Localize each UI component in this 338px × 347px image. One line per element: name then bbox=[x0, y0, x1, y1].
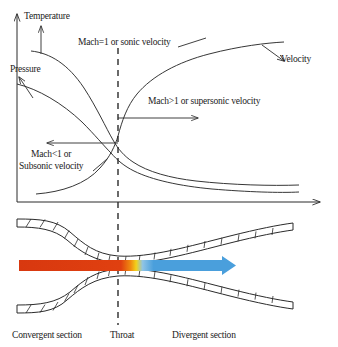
subsonic-label-leader bbox=[93, 159, 107, 171]
nozzle-lower-wall bbox=[17, 268, 293, 313]
divergent-section-label: Divergent section bbox=[172, 330, 236, 341]
convergent-section-label: Convergent section bbox=[12, 330, 82, 341]
nozzle-upper-wall-inner bbox=[17, 227, 293, 263]
throat-label: Throat bbox=[110, 330, 134, 341]
nozzle-flow-diagram: Temperature Pressure Mach=1 or sonic vel… bbox=[0, 0, 338, 347]
pressure-label: Pressure bbox=[10, 64, 41, 75]
flow-arrow bbox=[19, 256, 236, 275]
mach-one-leader bbox=[178, 38, 206, 47]
velocity-label: Velocity bbox=[281, 54, 311, 65]
temperature-label: Temperature bbox=[24, 11, 70, 22]
subsonic-label: Mach<1 or Subsonic velocity bbox=[19, 148, 83, 172]
mach-one-label: Mach=1 or sonic velocity bbox=[78, 37, 171, 48]
supersonic-label: Mach>1 or supersonic velocity bbox=[148, 96, 260, 107]
pressure-leader-arrow bbox=[19, 77, 33, 98]
nozzle-upper-wall bbox=[17, 219, 293, 263]
flow-arrow-body bbox=[19, 256, 236, 275]
diagram-canvas bbox=[0, 0, 338, 347]
